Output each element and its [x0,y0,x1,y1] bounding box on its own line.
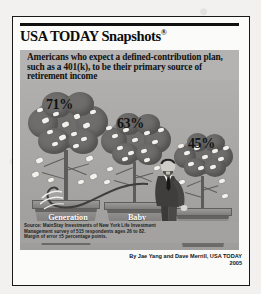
percent-generation-x: 71% [46,97,73,113]
headline-text: Americans who expect a defined-contribut… [27,53,232,82]
page-title: USA TODAY Snapshots® [20,28,166,45]
snapshot-card: USA TODAY Snapshots® Americans who expec… [12,16,250,286]
percent-seniors: 45% [188,136,215,152]
byline-credit: By Jae Yang and Dave Merrill, USA TODAY [23,253,242,260]
brand-name: USA TODAY Snapshots [20,28,161,44]
byline-year: 2005 [23,260,242,267]
registered-trademark-icon: ® [161,28,167,37]
hose-and-water [40,178,150,214]
byline: By Jae Yang and Dave Merrill, USA TODAY … [23,253,242,267]
top-rule [20,23,239,26]
headline-band: Americans who expect a defined-contribut… [20,50,239,80]
percent-baby-boomers: 63% [117,116,144,132]
source-line-3: Margin of error ±5 percentage points. [24,234,235,240]
source-note: Source: MainStay Investments of New York… [20,221,239,243]
